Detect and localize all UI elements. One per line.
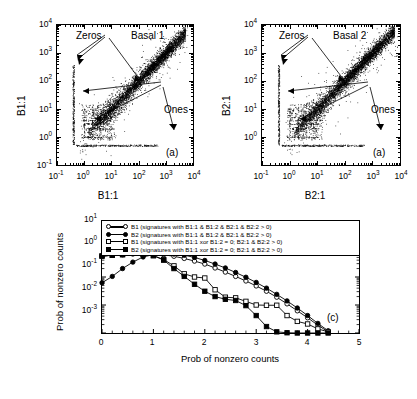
ytick-label-c-m2: 10-2: [61, 283, 97, 292]
open-circle-marker-icon: [106, 223, 128, 230]
ytick-label-a1-0: 100: [20, 133, 52, 142]
ytick-label-a1-3: 103: [20, 48, 52, 57]
xtick-label-a2-m1: 10-1: [247, 172, 275, 181]
annotation-zeros-a2: Zeros: [279, 30, 305, 41]
legend-label-b1-xor: B1 (signatures with B1:1 xor B1:2 = 0; B…: [131, 238, 282, 245]
plot-frame-basal-1: [56, 24, 194, 166]
ytick-label-a2-0: 100: [225, 133, 257, 142]
scatter-panel-basal-1: 104 103 102 101 100 10-1 10-1 100 101 10…: [0, 0, 205, 240]
legend-item-b2-xor[interactable]: B2 (signatures with B1:1 xor B1:2 = 0; B…: [106, 246, 356, 253]
legend-label-b1-all: B1 (signatures with B1:1 & B1:2 & B2:1 &…: [131, 223, 272, 230]
xtick-label-c-0: 0: [89, 338, 113, 347]
xtick-label-a2-1: 101: [303, 172, 331, 181]
legend-box: B1 (signatures with B1:1 & B1:2 & B2:1 &…: [101, 220, 360, 256]
panel-title-basal-2: Basal 2: [333, 30, 366, 41]
filled-circle-marker-icon: [106, 231, 128, 238]
xtick-label-a1-3: 103: [152, 172, 180, 181]
legend-item-b2-all[interactable]: B2 (signatures with B1:1 & B1:2 & B2:1 &…: [106, 231, 356, 238]
annotation-zeros-a1: Zeros: [76, 30, 102, 41]
ytick-label-a1-4: 104: [20, 20, 52, 29]
ytick-label-c-m3: 10-3: [61, 306, 97, 315]
line-chart-panel-c: B1 (signatures with B1:1 & B1:2 & B2:1 &…: [0, 240, 417, 399]
ytick-label-a1-m1: 10-1: [18, 161, 52, 170]
ytick-label-c-1: 101: [63, 215, 97, 224]
xtick-label-a1-1: 101: [97, 172, 125, 181]
xtick-label-c-1: 1: [140, 338, 164, 347]
y-axis-title-a2: B2:1: [221, 95, 232, 116]
xtick-label-a2-4: 104: [387, 172, 415, 181]
filled-square-marker-icon: [106, 246, 128, 253]
y-axis-title-a1: B1:1: [16, 95, 27, 116]
legend-item-b1-all[interactable]: B1 (signatures with B1:1 & B1:2 & B2:1 &…: [106, 223, 356, 230]
panel-title-basal-1: Basal 1: [131, 30, 164, 41]
y-axis-title-c: Prob of nonzero counts: [54, 233, 65, 331]
figure-root: 104 103 102 101 100 10-1 10-1 100 101 10…: [0, 0, 417, 399]
xtick-label-a2-2: 102: [331, 172, 359, 181]
plot-frame-basal-2: [261, 24, 401, 166]
annotation-ones-a2: Ones: [371, 104, 395, 115]
ytick-label-a1-2: 102: [20, 76, 52, 85]
ytick-label-a2-2: 102: [225, 76, 257, 85]
panel-tag-a2: (a): [373, 147, 385, 158]
open-square-marker-icon: [106, 238, 128, 245]
ytick-label-c-0: 100: [63, 237, 97, 246]
legend-label-b2-all: B2 (signatures with B1:1 & B1:2 & B2:1 &…: [131, 231, 272, 238]
x-axis-title-a1: B1:1: [98, 190, 119, 201]
x-axis-title-a2: B2:1: [305, 190, 326, 201]
scatter-cloud-basal-1: [57, 25, 193, 165]
x-axis-title-c: Prob of nonzero counts: [181, 353, 279, 364]
ytick-label-c-m1: 10-1: [61, 260, 97, 269]
xtick-label-c-2: 2: [192, 338, 216, 347]
xtick-label-a2-0: 100: [275, 172, 303, 181]
scatter-panel-basal-2: 104 103 102 101 100 10-1 100 101 102 103…: [205, 0, 417, 240]
panel-tag-c: (c): [327, 312, 339, 323]
xtick-label-a1-m1: 10-1: [42, 172, 70, 181]
xtick-label-c-3: 3: [244, 338, 268, 347]
legend-label-b2-xor: B2 (signatures with B1:1 xor B1:2 = 0; B…: [131, 246, 282, 253]
scatter-cloud-basal-2: [262, 25, 400, 165]
legend-item-b1-xor[interactable]: B1 (signatures with B1:1 xor B1:2 = 0; B…: [106, 238, 356, 245]
xtick-label-c-4: 4: [295, 338, 319, 347]
xtick-label-a1-0: 100: [69, 172, 97, 181]
xtick-label-a1-4: 104: [180, 172, 208, 181]
xtick-label-a2-3: 103: [359, 172, 387, 181]
annotation-ones-a1: Ones: [164, 104, 188, 115]
panel-tag-a1: (a): [166, 147, 178, 158]
xtick-label-c-5: 5: [347, 338, 371, 347]
xtick-label-a1-2: 102: [125, 172, 153, 181]
ytick-label-a2-3: 103: [225, 48, 257, 57]
ytick-label-a2-4: 104: [225, 20, 257, 29]
